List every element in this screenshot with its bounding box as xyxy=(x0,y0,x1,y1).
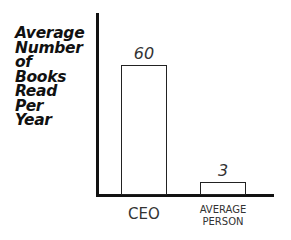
y-axis-label: Average Number of Books Read Per Year xyxy=(15,26,95,128)
bar-average-person xyxy=(200,182,246,195)
y-axis xyxy=(96,13,99,196)
bar-value-ceo: 60 xyxy=(121,44,167,63)
y-label-line: Year xyxy=(15,113,95,128)
bar-value-average-person: 3 xyxy=(200,161,246,180)
category-label-ceo: CEO xyxy=(114,205,174,223)
category-label-line: PERSON xyxy=(186,216,260,228)
category-label-line: AVERAGE xyxy=(186,204,260,216)
category-label-average-person: AVERAGE PERSON xyxy=(186,204,260,228)
bar-ceo xyxy=(121,65,167,195)
